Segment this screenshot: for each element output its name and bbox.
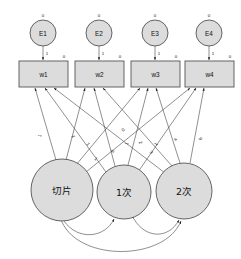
- latent-label-quadratic: 2次: [176, 186, 192, 197]
- latent-node-quadratic[interactable]: 2次: [156, 163, 212, 219]
- indicator-label-w1: w1: [38, 71, 48, 78]
- error-label-e3: E3: [151, 30, 159, 37]
- latent-label-linear: 1次: [116, 187, 132, 198]
- indicator-label-w2: w2: [94, 71, 104, 78]
- indicator-label-w4: w4: [204, 71, 214, 78]
- sem-path-diagram: w1 0 w2 0 w3 0 w4 0 E1 0 1 E2 0 1 E3 0 1…: [0, 0, 241, 259]
- latent-node-linear[interactable]: 1次: [97, 165, 151, 219]
- indicator-label-w3: w3: [150, 71, 160, 78]
- error-label-e4: E4: [205, 30, 213, 37]
- latent-node-intercept[interactable]: 切片: [31, 159, 93, 221]
- error-label-e1: E1: [39, 30, 47, 37]
- latent-label-intercept: 切片: [52, 185, 72, 196]
- error-label-e2: E2: [95, 30, 103, 37]
